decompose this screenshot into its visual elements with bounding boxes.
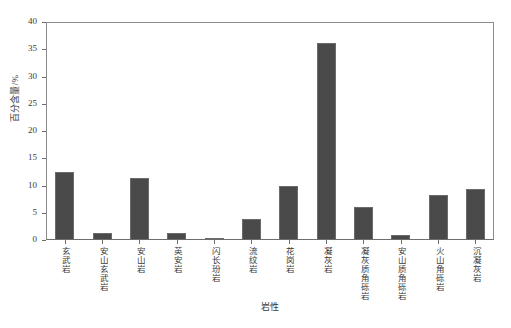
x-axis-tick-label: 安山岩 (135, 247, 145, 274)
x-axis-tick-label: 流纹岩 (247, 247, 257, 274)
bar (55, 172, 74, 240)
bar (93, 233, 112, 240)
bar (317, 43, 336, 240)
x-axis-tick-label: 安山质角砾岩 (396, 247, 406, 301)
x-axis-title: 岩性 (46, 300, 494, 313)
bar (429, 195, 448, 240)
y-axis-tick-mark (42, 186, 46, 187)
bar (354, 207, 373, 240)
x-axis-tick-label: 凝灰岩 (321, 247, 331, 274)
x-axis-tick-mark (251, 240, 252, 244)
x-axis-tick-mark (475, 240, 476, 244)
bar (466, 189, 485, 240)
y-axis-tick-mark (42, 49, 46, 50)
bar (279, 186, 298, 241)
y-axis-tick-label: 5 (33, 207, 38, 218)
y-axis-tick-mark (42, 131, 46, 132)
x-axis-tick-label: 玄武岩 (60, 247, 70, 274)
x-axis-tick-mark (214, 240, 215, 244)
x-axis-tick-label: 火山角砾岩 (433, 247, 443, 292)
y-axis-title: 百分含量/% (8, 39, 21, 159)
x-axis-tick-label: 闪长玢岩 (209, 247, 219, 283)
x-axis-tick-mark (326, 240, 327, 244)
y-axis-tick-mark (42, 240, 46, 241)
y-axis-tick-mark (42, 104, 46, 105)
y-axis-tick-label: 40 (28, 16, 37, 27)
x-axis-tick-label: 凝灰质角砾岩 (359, 247, 369, 301)
bar-chart-figure: 百分含量/% 0510152025303540 玄武岩安山玄武岩安山岩英安岩闪长… (0, 0, 511, 328)
x-axis-tick-mark (363, 240, 364, 244)
y-axis-tick-mark (42, 158, 46, 159)
x-axis-tick-label: 沉凝灰岩 (471, 247, 481, 283)
x-axis-tick-mark (102, 240, 103, 244)
x-axis-tick-label: 安山玄武岩 (97, 247, 107, 292)
y-axis-tick-mark (42, 22, 46, 23)
y-axis-tick-label: 25 (28, 98, 37, 109)
y-axis-tick-label: 15 (28, 152, 37, 163)
x-axis-tick-label: 花岗岩 (284, 247, 294, 274)
bar (205, 238, 224, 240)
y-axis-tick-label: 10 (28, 180, 37, 191)
x-axis-tick-mark (177, 240, 178, 244)
y-axis-tick-label: 0 (33, 234, 38, 245)
x-axis-tick-mark (65, 240, 66, 244)
x-axis-tick-mark (438, 240, 439, 244)
x-axis-tick-label: 英安岩 (172, 247, 182, 274)
y-axis-tick-label: 35 (28, 43, 37, 54)
bar (242, 219, 261, 240)
y-axis-tick-label: 20 (28, 125, 37, 136)
y-axis-tick-label: 30 (28, 71, 37, 82)
bar (130, 178, 149, 240)
x-axis-tick-mark (139, 240, 140, 244)
x-axis-tick-mark (289, 240, 290, 244)
y-axis-tick-mark (42, 213, 46, 214)
bar (391, 235, 410, 240)
bar (167, 233, 186, 240)
y-axis-tick-mark (42, 77, 46, 78)
x-axis-tick-mark (401, 240, 402, 244)
plot-area (46, 22, 494, 240)
